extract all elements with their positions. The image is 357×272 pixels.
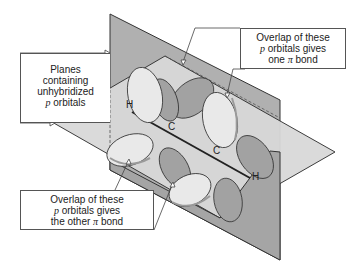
planes-line-2: containing — [25, 75, 106, 86]
top-line-3: one π bond — [245, 54, 341, 65]
bottom-line-2-rest: orbitals gives — [59, 205, 120, 216]
bottom-line-1: Overlap of these — [25, 194, 149, 205]
bottom-line-3-post: bond — [98, 216, 123, 227]
planes-line-4: p orbitals — [25, 97, 106, 108]
planes-label: Planes containing unhybridized p orbital… — [20, 53, 110, 123]
bottom-overlap-label: Overlap of these p orbitals gives the ot… — [20, 190, 154, 230]
atom-h-right: H — [252, 171, 259, 182]
top-line-3-pre: one — [268, 54, 287, 65]
bottom-line-2: p orbitals gives — [25, 205, 149, 216]
atom-c-left: C — [168, 121, 175, 132]
bottom-line-3: the other π bond — [25, 216, 149, 227]
planes-line-4-rest: orbitals — [50, 97, 85, 108]
top-line-1: Overlap of these — [245, 32, 341, 43]
atom-h-left: H — [126, 99, 133, 110]
top-line-3-post: bond — [293, 54, 318, 65]
top-line-2-rest: orbitals gives — [265, 43, 326, 54]
atom-c-right: C — [213, 145, 220, 156]
top-line-2: p orbitals gives — [245, 43, 341, 54]
planes-line-1: Planes — [25, 64, 106, 75]
top-overlap-label: Overlap of these p orbitals gives one π … — [240, 28, 346, 69]
bottom-line-3-pre: the other — [51, 216, 93, 227]
planes-line-3: unhybridized — [25, 86, 106, 97]
